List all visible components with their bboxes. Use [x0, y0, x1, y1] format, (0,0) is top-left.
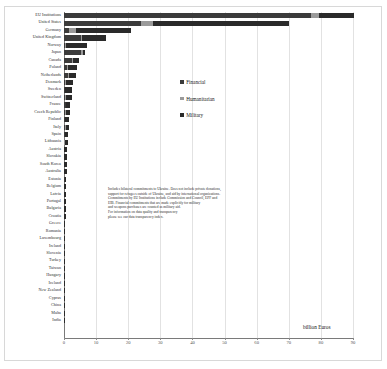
stacked-bar[interactable]	[64, 221, 65, 226]
bar-category-label: Turkey	[0, 256, 61, 263]
bar-segment-military	[82, 35, 105, 40]
bar-segment-military	[64, 251, 65, 256]
stacked-bar[interactable]	[64, 177, 66, 182]
bar-category-label: New Zealand	[0, 286, 61, 293]
bar-segment-humanitarian	[141, 21, 153, 26]
bar-segment-military	[64, 221, 65, 226]
stacked-bar[interactable]	[64, 206, 66, 211]
legend-label: Financial	[186, 79, 205, 85]
stacked-bar[interactable]	[64, 21, 289, 26]
stacked-bar[interactable]	[64, 154, 67, 159]
bar-category-label: Estonia	[0, 175, 61, 182]
stacked-bar[interactable]	[64, 147, 67, 152]
bar-category-label: Switzerland	[0, 93, 61, 100]
stacked-bar[interactable]	[64, 132, 68, 137]
stacked-bar[interactable]	[64, 273, 65, 278]
bar-segment-military	[64, 259, 65, 264]
stacked-bar[interactable]	[64, 43, 87, 48]
bar-category-label: Belgium	[0, 182, 61, 189]
stacked-bar[interactable]	[64, 214, 66, 219]
bar-category-label: EU Institutions	[0, 11, 61, 18]
bar-category-label: Denmark	[0, 78, 61, 85]
bar-segment-financial	[64, 58, 72, 63]
stacked-bar[interactable]	[64, 229, 65, 234]
bar-rows: EU InstitutionsUnited StatesGermanyUnite…	[0, 12, 387, 324]
stacked-bar[interactable]	[64, 87, 72, 92]
bar-segment-military	[69, 73, 76, 78]
bar-segment-military	[83, 50, 85, 55]
bar-category-label: Austria	[0, 145, 61, 152]
x-tick-label: 10	[94, 340, 99, 345]
bar-category-label: Slovakia	[0, 152, 61, 159]
stacked-bar[interactable]	[64, 162, 67, 167]
bar-segment-military	[66, 43, 87, 48]
legend-label: Military	[186, 112, 203, 118]
bar-segment-humanitarian	[311, 13, 318, 18]
bar-segment-military	[64, 199, 65, 204]
bar-segment-military	[65, 132, 68, 137]
stacked-bar[interactable]	[64, 266, 65, 271]
bar-category-label: Canada	[0, 56, 61, 63]
stacked-bar[interactable]	[64, 58, 79, 63]
x-tick-label: 70	[286, 340, 291, 345]
stacked-bar[interactable]	[64, 125, 69, 130]
legend-item-humanitarian[interactable]: Humanitarian	[180, 96, 215, 102]
bar-category-label: Japan	[0, 48, 61, 55]
stacked-bar[interactable]	[64, 102, 70, 107]
bar-category-label: Luxembourg	[0, 234, 61, 241]
bar-category-label: Portugal	[0, 197, 61, 204]
stacked-bar[interactable]	[64, 251, 65, 256]
bar-category-label: Italy	[0, 123, 61, 130]
stacked-bar[interactable]	[64, 199, 66, 204]
stacked-bar[interactable]	[64, 95, 72, 100]
bar-category-label: United States	[0, 18, 61, 25]
stacked-bar[interactable]	[64, 259, 65, 264]
stacked-bar[interactable]	[64, 73, 76, 78]
bar-segment-financial	[64, 50, 81, 55]
bar-segment-military	[64, 154, 67, 159]
x-tick-label: 0	[63, 340, 65, 345]
stacked-bar[interactable]	[64, 110, 70, 115]
bar-segment-military	[64, 229, 65, 234]
bar-category-label: Netherlands	[0, 71, 61, 78]
stacked-bar[interactable]	[64, 169, 67, 174]
legend-item-financial[interactable]: Financial	[180, 79, 215, 85]
bar-category-label: Norway	[0, 41, 61, 48]
bar-category-label: United Kingdom	[0, 33, 61, 40]
bar-segment-military	[73, 58, 79, 63]
stacked-bar[interactable]	[64, 80, 73, 85]
bar-segment-military	[64, 273, 65, 278]
chart-legend: FinancialHumanitarianMilitary	[180, 79, 215, 129]
stacked-bar[interactable]	[64, 244, 65, 249]
stacked-bar[interactable]	[64, 13, 354, 18]
legend-swatch-icon	[180, 80, 184, 84]
stacked-bar[interactable]	[64, 50, 85, 55]
stacked-bar[interactable]	[64, 28, 131, 33]
stacked-bar[interactable]	[64, 65, 77, 70]
bar-segment-military	[64, 184, 66, 189]
bar-segment-military	[66, 80, 74, 85]
bar-segment-military	[65, 117, 69, 122]
bar-category-label: Croatia	[0, 212, 61, 219]
stacked-bar[interactable]	[64, 117, 69, 122]
bar-segment-military	[65, 87, 71, 92]
stacked-bar[interactable]	[64, 184, 66, 189]
bar-category-label: Sweden	[0, 85, 61, 92]
bar-category-label: Iceland	[0, 279, 61, 286]
stacked-bar[interactable]	[64, 236, 65, 241]
x-tick-label: 20	[126, 340, 131, 345]
x-tick-label: 60	[254, 340, 259, 345]
bar-segment-financial	[64, 13, 311, 18]
x-axis-line	[64, 338, 353, 339]
bar-category-label: India	[0, 316, 61, 323]
bar-category-label: Bulgaria	[0, 204, 61, 211]
stacked-bar[interactable]	[64, 192, 66, 197]
stacked-bar[interactable]	[64, 35, 106, 40]
legend-item-military[interactable]: Military	[180, 112, 215, 118]
stacked-bar[interactable]	[64, 281, 65, 286]
legend-swatch-icon	[180, 97, 184, 101]
bar-category-label: Greece	[0, 219, 61, 226]
stacked-bar[interactable]	[64, 140, 68, 145]
bar-segment-military	[64, 244, 65, 249]
bar-segment-military	[66, 102, 70, 107]
